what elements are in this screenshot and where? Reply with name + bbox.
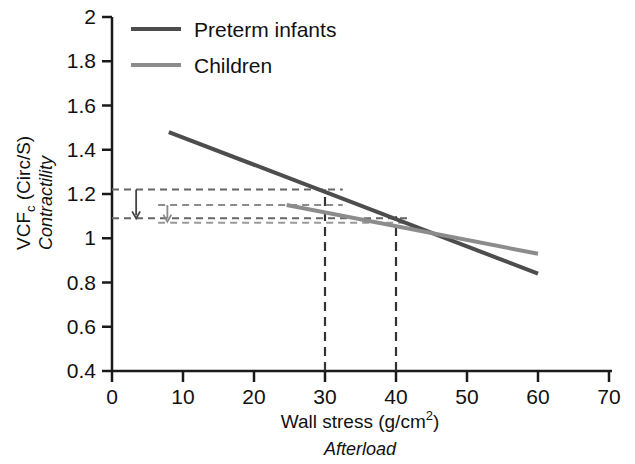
- y-tick-label-1.8: 1.8: [67, 49, 96, 72]
- x-axis-title-afterload: Afterload: [323, 439, 397, 459]
- y-axis-tick-labels: 0.40.60.811.21.41.61.82: [67, 5, 97, 382]
- y-axis-title-vcf: VCF: [13, 212, 34, 250]
- x-axis-tick-labels: 010203040506070: [106, 385, 621, 408]
- x-axis-title-main: Wall stress (g/cm2): [281, 408, 440, 432]
- y-tick-label-2: 2: [84, 5, 96, 28]
- preterm-drop-arrow: [132, 190, 140, 219]
- y-tick-label-1.4: 1.4: [67, 138, 97, 161]
- y-axis-ticks: [102, 17, 112, 371]
- y-axis-title: VCFc (Circ/S) Contractility: [13, 136, 56, 250]
- y-axis-title-units: (Circ/S): [13, 136, 34, 206]
- drop-arrows: [132, 190, 171, 222]
- data-series-lines: [169, 132, 538, 274]
- x-axis-title: Wall stress (g/cm2) Afterload: [281, 408, 440, 459]
- y-tick-label-1: 1: [84, 226, 96, 249]
- x-tick-label-20: 20: [242, 385, 265, 408]
- x-tick-label-70: 70: [597, 385, 620, 408]
- x-tick-label-30: 30: [313, 385, 336, 408]
- x-axis-title-wallstress: Wall stress (g/cm: [281, 411, 426, 432]
- legend-item-preterm-infants: Preterm infants: [131, 18, 336, 41]
- chart-legend: Preterm infantsChildren: [131, 18, 336, 77]
- chart-figure: 0.40.60.811.21.41.61.82 010203040506070 …: [0, 0, 635, 464]
- y-tick-label-1.6: 1.6: [67, 94, 96, 117]
- axes: [112, 17, 612, 371]
- x-tick-label-10: 10: [171, 385, 194, 408]
- x-axis-ticks: [112, 371, 609, 382]
- series-line-preterm-infants: [169, 132, 538, 274]
- x-axis-title-paren: ): [433, 411, 439, 432]
- legend-label-children: Children: [194, 54, 272, 77]
- y-tick-label-0.4: 0.4: [67, 359, 97, 382]
- legend-label-preterm-infants: Preterm infants: [194, 18, 336, 41]
- x-tick-label-40: 40: [384, 385, 407, 408]
- y-axis-title-main: VCFc (Circ/S): [13, 136, 38, 250]
- x-axis-title-exponent: 2: [426, 408, 433, 423]
- vcf-wall-stress-line-chart: 0.40.60.811.21.41.61.82 010203040506070 …: [0, 0, 635, 464]
- x-tick-label-60: 60: [526, 385, 549, 408]
- y-tick-label-1.2: 1.2: [67, 182, 96, 205]
- y-axis-title-contractility: Contractility: [36, 155, 56, 250]
- x-tick-label-50: 50: [455, 385, 478, 408]
- x-tick-label-0: 0: [106, 385, 118, 408]
- legend-item-children: Children: [131, 54, 272, 77]
- y-tick-label-0.8: 0.8: [67, 271, 96, 294]
- y-tick-label-0.6: 0.6: [67, 315, 96, 338]
